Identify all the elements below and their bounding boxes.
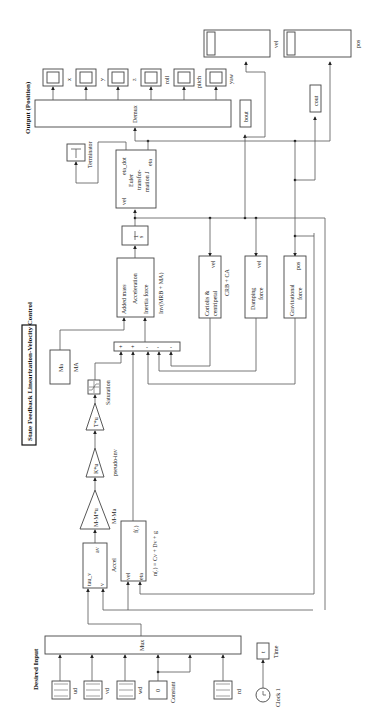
svg-text:Inertia force: Inertia force xyxy=(143,284,149,314)
svg-text:mation J: mation J xyxy=(144,171,150,192)
gravitational-block[interactable]: Gravitational force pos xyxy=(284,256,306,318)
svg-text:pos: pos xyxy=(355,39,361,48)
inertia-block[interactable]: Added mass Acceleration Inertia force In… xyxy=(117,258,165,317)
svg-text:Accel: Accel xyxy=(111,558,117,572)
svg-text:MA: MA xyxy=(73,362,79,372)
svg-text:f(.): f(.) xyxy=(133,526,140,534)
source-vd[interactable]: vd xyxy=(84,681,110,699)
svg-text:Time: Time xyxy=(273,645,279,658)
svg-text:-: - xyxy=(146,344,148,350)
svg-text:State Feedback Linearization-V: State Feedback Linearization-Velocity Co… xyxy=(26,302,34,441)
svg-text:Ma: Ma xyxy=(58,364,64,372)
svg-text:Coriolis &: Coriolis & xyxy=(204,290,210,316)
svg-text:rd: rd xyxy=(236,689,242,694)
svg-text:force: force xyxy=(297,287,303,300)
svg-text:cout: cout xyxy=(313,95,319,106)
scope-z[interactable]: z xyxy=(108,69,137,86)
svg-text:bout: bout xyxy=(243,111,249,122)
euler-transform-block[interactable]: vel eta_dot Euler transfor- mation J eta xyxy=(116,150,156,208)
sum-block[interactable]: + + - - - xyxy=(114,342,180,351)
nonlinear-fcn-block[interactable]: f(.) vel eta n(.) = Cv + Dv + g xyxy=(121,521,159,581)
svg-text:vel: vel xyxy=(121,197,127,205)
svg-text:force: force xyxy=(258,287,264,300)
svg-text:transfor-: transfor- xyxy=(136,169,142,190)
svg-text:y: y xyxy=(99,78,105,81)
svg-text:vel: vel xyxy=(210,260,216,268)
scope-y[interactable]: y xyxy=(76,69,105,86)
svg-text:x: x xyxy=(66,78,72,81)
to-workspace-bout[interactable]: bout xyxy=(240,100,251,127)
svg-text:Euler: Euler xyxy=(128,174,134,187)
source-wd[interactable]: wd xyxy=(117,681,143,699)
source-ud[interactable]: ud xyxy=(52,681,78,699)
gain-t[interactable]: T*u xyxy=(86,403,104,430)
svg-text:Demux: Demux xyxy=(132,105,138,123)
svg-text:pos: pos xyxy=(295,261,301,270)
clock-block[interactable]: Clock 1 xyxy=(256,688,281,707)
scope-pos[interactable]: pos xyxy=(284,30,361,57)
svg-text:ud: ud xyxy=(72,688,78,694)
scope-vel[interactable]: vel xyxy=(204,30,279,57)
scope-x[interactable]: x xyxy=(43,69,72,86)
svg-text:M-M*u: M-M*u xyxy=(93,508,99,527)
svg-text:tau_v: tau_v xyxy=(86,573,92,586)
svg-text:pseudo-inv: pseudo-inv xyxy=(112,449,118,476)
svg-text:eta_dot: eta_dot xyxy=(121,157,127,175)
damping-block[interactable]: Damping force vel xyxy=(245,256,267,318)
svg-text:yaw: yaw xyxy=(228,73,234,84)
diagram-title: State Feedback Linearization-Velocity Co… xyxy=(22,302,36,445)
svg-text:wd: wd xyxy=(137,687,143,694)
scope-yaw[interactable]: yaw xyxy=(206,69,234,86)
svg-text:Inv(MRB + MA): Inv(MRB + MA) xyxy=(158,273,165,314)
section-desired-input: Desired Input xyxy=(32,648,40,690)
ma-constant-block[interactable]: Ma MA xyxy=(50,350,79,384)
svg-text:Mux: Mux xyxy=(139,640,145,651)
svg-text:eta: eta xyxy=(138,573,144,580)
mux-block[interactable]: Mux xyxy=(45,636,241,654)
svg-text:0: 0 xyxy=(155,689,161,692)
gain-m-ma[interactable]: M-M*u M-Ma xyxy=(80,490,117,529)
svg-text:pitch: pitch xyxy=(196,76,202,88)
svg-text:M-Ma: M-Ma xyxy=(111,508,117,524)
scope-roll[interactable]: roll xyxy=(141,69,170,86)
coriolis-block[interactable]: Coriolis & centripetal vel CRB + CA xyxy=(199,256,230,318)
section-output-position: Output (Position) xyxy=(24,81,32,134)
demux-block[interactable]: Demux xyxy=(35,100,231,127)
svg-text:-: - xyxy=(170,344,172,350)
svg-text:v: v xyxy=(99,583,105,586)
svg-text:av: av xyxy=(94,547,100,553)
svg-text:vel: vel xyxy=(273,40,279,48)
svg-text:Added mass: Added mass xyxy=(121,284,127,314)
svg-text:Saturation: Saturation xyxy=(105,380,111,405)
svg-text:roll: roll xyxy=(164,75,170,84)
saturation-block[interactable]: Saturation xyxy=(88,380,111,405)
gain-pseudo-inv[interactable]: K*u pseudo-inv xyxy=(86,448,118,477)
svg-text:z: z xyxy=(131,78,137,81)
svg-text:Acceleration: Acceleration xyxy=(132,273,138,304)
svg-text:Constant: Constant xyxy=(170,681,176,703)
source-rd[interactable]: rd xyxy=(214,681,242,699)
svg-text:T*u: T*u xyxy=(93,417,99,427)
to-workspace-cout[interactable]: cout xyxy=(310,85,321,112)
accel-block[interactable]: tau_v v av Accel xyxy=(83,543,117,588)
svg-text:centripetal: centripetal xyxy=(212,290,218,316)
svg-text:Clock 1: Clock 1 xyxy=(275,688,281,707)
scope-pitch[interactable]: pitch xyxy=(174,69,202,88)
constant-block[interactable]: 0 Constant xyxy=(149,681,176,703)
svg-text:eta: eta xyxy=(147,159,153,166)
svg-text:-: - xyxy=(157,344,159,350)
svg-text:CRB + CA: CRB + CA xyxy=(224,269,230,296)
svg-text:vd: vd xyxy=(104,688,110,694)
svg-text:Terminator: Terminator xyxy=(87,141,93,168)
svg-text:vel: vel xyxy=(256,260,262,268)
integrator-block[interactable]: 1 s xyxy=(122,226,148,245)
svg-text:Damping: Damping xyxy=(250,288,256,310)
svg-text:n(.) = Cv + Dv + g: n(.) = Cv + Dv + g xyxy=(152,531,159,576)
simulink-diagram: State Feedback Linearization-Velocity Co… xyxy=(0,0,372,725)
svg-text:Gravitational: Gravitational xyxy=(289,284,295,316)
svg-text:vel: vel xyxy=(125,572,131,580)
terminator-block[interactable]: Terminator xyxy=(67,141,93,168)
svg-text:K*u: K*u xyxy=(93,464,99,474)
time-display[interactable]: t Time xyxy=(257,643,279,659)
